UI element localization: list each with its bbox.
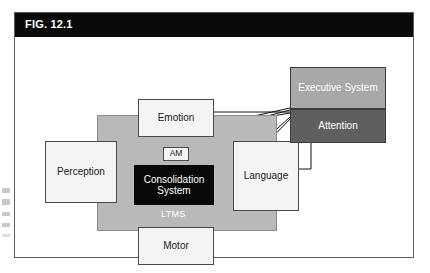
page-bleed-mark (2, 223, 10, 227)
node-attention[interactable]: Attention (290, 109, 386, 143)
node-am-label: AM (170, 149, 183, 159)
node-language-label: Language (244, 170, 289, 181)
page-bleed-mark (2, 234, 10, 237)
diagram-canvas: LTMS Perception Emotion AM Consolidation… (15, 37, 415, 258)
page-bleed-mark (2, 188, 10, 193)
node-emotion-label: Emotion (158, 112, 195, 123)
figure-label: FIG. 12.1 (25, 18, 73, 30)
ltms-field-label: LTMS (161, 209, 186, 219)
node-executive-system-label: Executive System (298, 82, 377, 93)
node-motor[interactable]: Motor (138, 227, 214, 265)
figure-title-bar: FIG. 12.1 (15, 13, 413, 37)
node-perception-label: Perception (57, 166, 105, 177)
node-motor-label: Motor (163, 240, 189, 251)
page-bleed-mark (2, 199, 10, 205)
node-attention-label: Attention (318, 120, 357, 131)
node-consolidation-system[interactable]: Consolidation System (134, 165, 214, 205)
node-executive-system[interactable]: Executive System (290, 67, 386, 109)
node-emotion[interactable]: Emotion (138, 99, 214, 137)
node-am[interactable]: AM (163, 147, 189, 161)
node-perception[interactable]: Perception (45, 141, 117, 203)
node-language[interactable]: Language (233, 141, 299, 211)
page-bleed-mark (2, 212, 10, 216)
figure-page: FIG. 12.1 (0, 0, 430, 273)
figure-frame: FIG. 12.1 (14, 12, 414, 258)
node-consolidation-system-label: Consolidation System (135, 174, 213, 196)
